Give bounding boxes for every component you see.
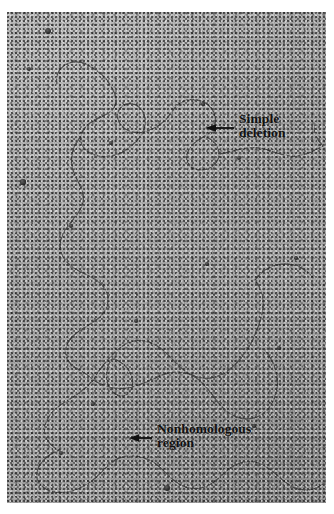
- dust-speck: [252, 424, 255, 427]
- left-arrow-icon: [129, 429, 153, 447]
- dust-speck: [20, 179, 25, 184]
- dust-speck: [237, 156, 241, 160]
- dna-filament-halo: [37, 450, 119, 492]
- dust-speck: [277, 346, 281, 350]
- dna-filament-halo: [45, 380, 93, 450]
- dust-speck: [205, 262, 208, 265]
- dust-speck: [294, 256, 297, 259]
- dust-speck: [201, 102, 205, 106]
- dust-speck: [27, 67, 31, 71]
- dna-filament-halo: [107, 359, 133, 396]
- dust-speck: [91, 402, 95, 406]
- annotation-line-1: Simple: [239, 112, 286, 126]
- dna-filament-halo: [271, 470, 323, 490]
- dust-speck: [109, 141, 113, 145]
- annotation-nonhomologous-region: Nonhomologous region: [129, 422, 251, 450]
- left-arrow-icon: [205, 119, 235, 137]
- dna-filament-upper-left-tail: [56, 62, 93, 84]
- micrograph-plate: Simple deletion Nonhomologous region: [7, 12, 326, 503]
- annotation-simple-deletion: Simple deletion: [205, 112, 286, 140]
- annotation-text-block: Simple deletion: [239, 112, 286, 140]
- micrograph-figure: Simple deletion Nonhomologous region: [0, 0, 334, 514]
- dna-filament-halo: [81, 68, 131, 157]
- annotation-line-2: deletion: [239, 126, 286, 140]
- dna-filament-left-descending-wavy: [60, 136, 108, 316]
- dna-filament-nonhomologous-bubble-upper: [93, 280, 263, 380]
- annotation-line-1: Nonhomologous: [157, 422, 251, 436]
- annotation-line-2: region: [157, 436, 251, 450]
- dna-filament-bottom-run-right: [119, 456, 271, 489]
- dna-filament-mid-diagonal: [66, 316, 101, 380]
- dna-filament-upper-tangle-left: [81, 68, 131, 157]
- dna-filament-right-edge-descend: [255, 264, 313, 280]
- dna-filament-halo: [66, 316, 101, 380]
- annotation-text-block: Nonhomologous region: [157, 422, 251, 450]
- dna-filament-upper-tangle-loop: [117, 104, 173, 146]
